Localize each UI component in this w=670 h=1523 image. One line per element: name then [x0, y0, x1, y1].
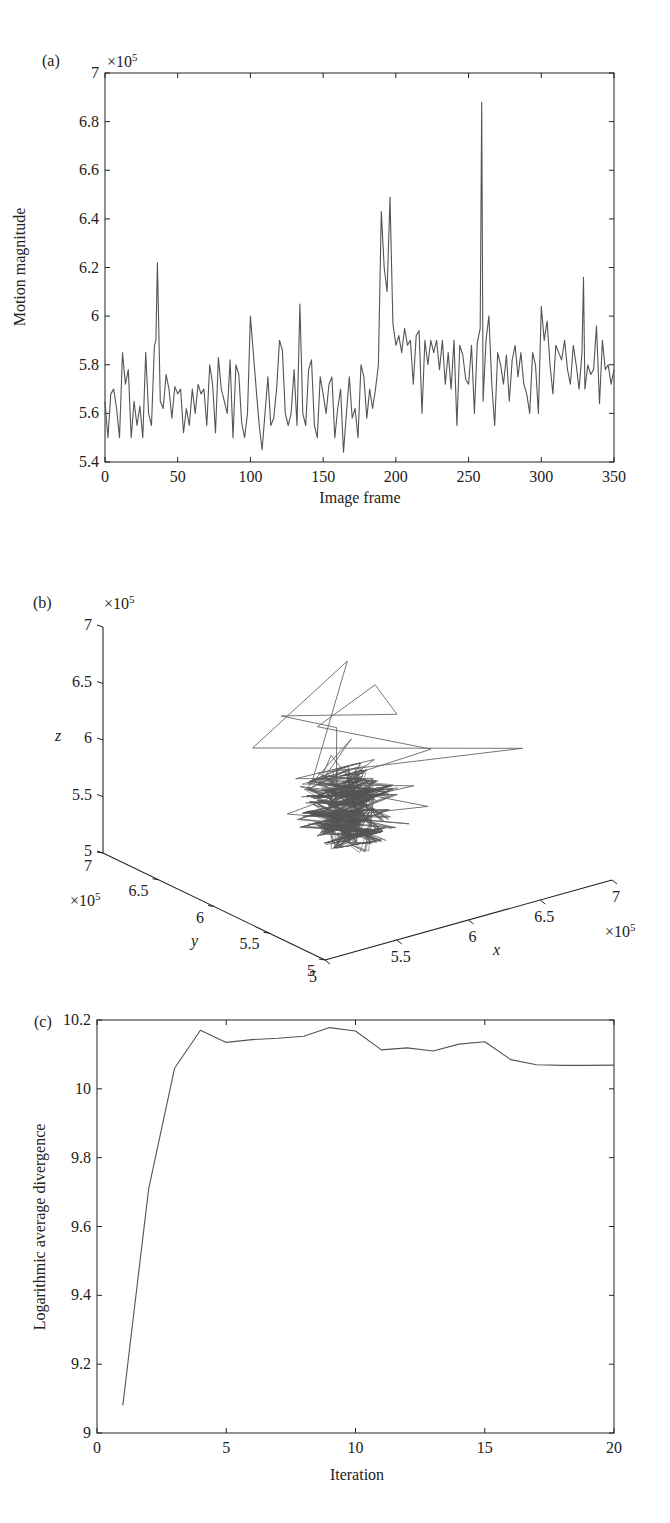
log-divergence-line	[123, 1028, 614, 1406]
panel-c-tag: (c)	[34, 1013, 52, 1031]
y-tick-label: 10	[75, 1080, 91, 1097]
x-axis-label-c: Iteration	[330, 1466, 384, 1483]
y-tick-label: 9.2	[71, 1355, 91, 1372]
x-tick-label: 15	[477, 1439, 493, 1456]
y-axis-label-c: Logarithmic average divergence	[31, 1124, 49, 1331]
y-tick-label: 9.6	[71, 1218, 91, 1235]
figure-caption-cutoff	[0, 1512, 670, 1523]
x-axis-ticks-c: 05101520	[93, 1020, 622, 1456]
x-tick-label: 10	[348, 1439, 364, 1456]
y-tick-label: 9.8	[71, 1149, 91, 1166]
y-tick-label: 9	[83, 1424, 91, 1441]
panel-c: (c) 99.29.49.69.81010.2 05101520 Logarit…	[0, 0, 670, 1500]
plot-frame-c	[97, 1020, 614, 1433]
x-tick-label: 20	[606, 1439, 622, 1456]
y-tick-label: 9.4	[71, 1286, 91, 1303]
y-axis-ticks-c: 99.29.49.69.81010.2	[63, 1011, 614, 1441]
x-tick-label: 0	[93, 1439, 101, 1456]
y-tick-label: 10.2	[63, 1011, 91, 1028]
chart-c-log-divergence: (c) 99.29.49.69.81010.2 05101520 Logarit…	[0, 0, 670, 1500]
x-tick-label: 5	[222, 1439, 230, 1456]
